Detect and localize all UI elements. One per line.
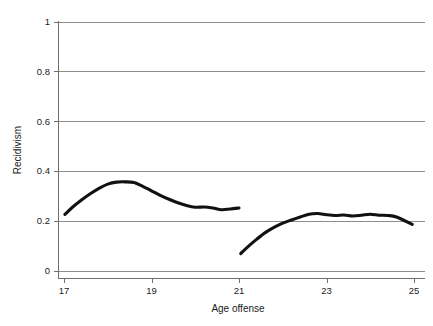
y-tick-label: 0.4 <box>37 165 50 176</box>
chart-container: 00.20.40.60.81 1719212325 Recidivism Age… <box>0 0 433 326</box>
y-tick-label: 0.6 <box>37 116 50 127</box>
recidivism-line-chart: 00.20.40.60.81 1719212325 Recidivism Age… <box>0 0 433 326</box>
y-axis-title: Recidivism <box>12 126 23 174</box>
y-tick-label: 0.8 <box>37 66 50 77</box>
y-tick-label: 0 <box>45 265 50 276</box>
x-tick-label: 21 <box>234 285 245 296</box>
y-tick-label: 0.2 <box>37 215 50 226</box>
x-tick-label: 17 <box>59 285 70 296</box>
chart-background <box>0 0 433 326</box>
y-tick-label: 1 <box>45 16 50 27</box>
x-tick-label: 25 <box>409 285 420 296</box>
x-axis-title: Age offense <box>211 303 265 314</box>
x-tick-label: 19 <box>146 285 157 296</box>
x-tick-label: 23 <box>321 285 332 296</box>
